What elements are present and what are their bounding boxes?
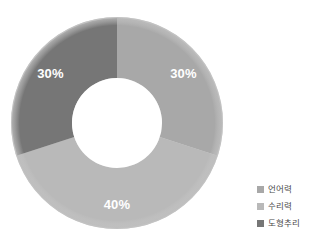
slice-value-label-0: 30% [170, 66, 197, 81]
legend-item-2[interactable]: 도형추리 [257, 218, 313, 229]
legend-item-label-2: 도형추리 [268, 218, 300, 229]
legend-item-1[interactable]: 수리력 [257, 201, 313, 212]
legend-item-label-1: 수리력 [268, 201, 292, 212]
chart-plot-area: 30%40%30% [0, 0, 250, 247]
legend-swatch-icon-2 [257, 220, 264, 227]
legend-swatch-icon-1 [257, 203, 264, 210]
donut-center-hole [72, 78, 162, 168]
slice-value-label-1: 40% [104, 197, 131, 212]
legend-item-label-0: 언어력 [268, 184, 292, 195]
legend-swatch-icon-0 [257, 186, 264, 193]
legend-item-0[interactable]: 언어력 [257, 184, 313, 195]
donut-chart-figure: 30%40%30% 언어력수리력도형추리 [0, 0, 313, 247]
donut-chart-svg: 30%40%30% [0, 0, 250, 247]
chart-legend: 언어력수리력도형추리 [257, 184, 313, 229]
slice-value-label-2: 30% [37, 66, 64, 81]
